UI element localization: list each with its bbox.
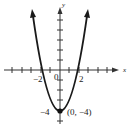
x-axis-arrow-icon bbox=[112, 68, 119, 73]
x-axis bbox=[4, 67, 119, 73]
vertex-point bbox=[57, 108, 62, 113]
parabola-graph: y x −2 0 2 −4 (0, −4) bbox=[0, 0, 128, 131]
tick-label-0: 0 bbox=[54, 72, 59, 82]
tick-label-neg2: −2 bbox=[33, 74, 43, 84]
right-curve-arrow-icon bbox=[84, 9, 90, 18]
tick-label-2: 2 bbox=[79, 74, 84, 84]
tick-label-neg4: −4 bbox=[40, 107, 50, 117]
y-axis-label: y bbox=[61, 1, 66, 9]
y-axis bbox=[57, 7, 63, 124]
vertex-label: (0, −4) bbox=[67, 107, 92, 117]
x-axis-label: x bbox=[122, 66, 127, 74]
left-curve-arrow-icon bbox=[30, 9, 36, 18]
